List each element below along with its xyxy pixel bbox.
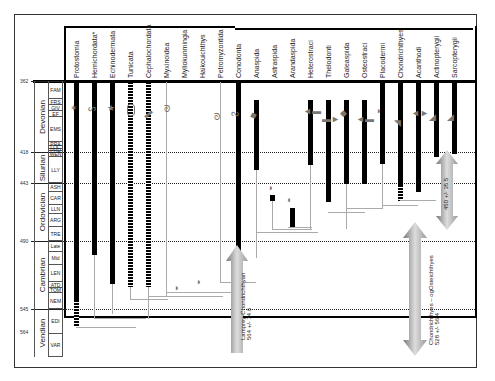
actino-sarco-divergence-label: 450 +/- 35.5: [443, 178, 449, 210]
stage-cell: ARG: [48, 214, 63, 227]
range-bar-acanthodi: [416, 82, 421, 192]
range-hatch-chondrichthyes: [398, 185, 403, 201]
stage-cell: LLN: [48, 205, 63, 214]
range-bar-protostomia: [74, 82, 79, 308]
taxon-label: Acanthodi: [414, 30, 424, 78]
period-cell: Devonian: [34, 81, 49, 152]
time-tick-label: 490: [20, 238, 28, 244]
taxon-label: Astraspida: [270, 30, 280, 78]
taxon-name: Echinodermata: [109, 31, 116, 78]
taxon-name: Heterostraci: [307, 40, 314, 78]
taxon-name: Thelodonti: [325, 45, 332, 78]
acanthodian-fossil-icon: ◄►: [411, 108, 429, 118]
taxon-label: Tunicata: [126, 30, 136, 78]
range-bar-arandaspida: [290, 208, 295, 228]
chondrichthyes-divergence-label: Chondrichthyes – ogOsteichthyes528 +/- 5…: [428, 255, 440, 345]
taxon-name: Tunicata: [127, 51, 134, 78]
time-tick-label: 418: [20, 149, 28, 155]
stage-cell: EMS: [48, 117, 63, 142]
taxon-label: Sarcopterygii: [450, 30, 460, 78]
astraspid-fossil-icon: ◗: [268, 183, 273, 193]
branch-heterostraci: [310, 165, 311, 229]
taxon-label: Hemichordata*: [90, 30, 100, 78]
taxon-label: Heterostraci: [306, 30, 316, 78]
taxon-name: Conodonta: [235, 44, 242, 78]
time-tick-label: 443: [20, 180, 28, 186]
taxon-name: Sarcopterygii: [451, 37, 458, 78]
time-tick-label: 564: [20, 329, 28, 335]
lamprey-divergence-label: Lamprey-Chondrichthyan564 +/- 74.6: [240, 273, 252, 340]
conodont-fossil-icon: ᔓ: [231, 108, 239, 118]
lamprey-fossil-icon: ᘐ: [214, 112, 220, 123]
haikouichthys-fossil-icon: ◗: [196, 277, 201, 287]
taxon-label: Arandaspida: [288, 30, 298, 78]
stage-cell: Late: [48, 241, 63, 252]
stage-cell: VAR: [48, 334, 63, 357]
taxon-name: Astraspida: [271, 45, 278, 78]
period-name: Cambrian: [38, 258, 47, 293]
branch-astraspida: [272, 201, 273, 229]
hemichordate-fossil-icon: ᔕ: [88, 103, 96, 113]
branch-cephalochordata: [148, 287, 149, 319]
period-cell: Vendian: [34, 309, 49, 357]
taxon-name: Cephalochordata: [145, 25, 152, 78]
taxon-name: Galeaspida: [343, 43, 350, 78]
branch-hemichordata: [94, 255, 95, 319]
chondrichthyes-osteichthyes-arrow: [403, 222, 427, 356]
taxon-name: Arandaspida: [289, 39, 296, 78]
branch-node-3: [130, 299, 168, 300]
branch-galeaspida: [346, 184, 347, 229]
taxon-name: Myxinoidea: [163, 43, 170, 78]
myllokunmingia-fossil-icon: ◗: [174, 283, 179, 293]
branch-node-8: [272, 229, 312, 230]
branch-node-7: [256, 232, 318, 233]
actinopterygian-fossil-icon: ◢: [429, 112, 436, 122]
branch-node-11: [346, 208, 383, 209]
chondrichthyan-fossil-icon: ◥: [394, 118, 401, 128]
range-hatch-protostomia: [74, 300, 79, 326]
osteostracan-fossil-icon: ◄▬: [356, 114, 374, 124]
branch-tunicata: [130, 287, 131, 299]
branch-node-13: [400, 200, 436, 201]
taxon-name: Placodermi: [379, 43, 386, 78]
stage-cell: NEM: [48, 293, 63, 309]
taxon-label: Actinopterygii: [432, 30, 442, 78]
period-cell: Cambrian: [34, 241, 49, 309]
period-name: Devonian: [38, 100, 47, 134]
sarcopterygian-fossil-icon: ◢: [447, 112, 454, 122]
taxon-label: Myllokunmingia: [180, 30, 190, 78]
branch-node-12: [382, 205, 418, 206]
taxon-label: Petromyzontida: [216, 30, 226, 78]
silurian-devonian-boundary: [65, 152, 475, 153]
stage-cell: ASH: [48, 183, 63, 192]
taxon-name: Protostomia: [73, 41, 80, 78]
taxon-label: Galeaspida: [342, 30, 352, 78]
stage-cell: FAM: [48, 81, 63, 99]
branch-node-9: [288, 227, 312, 228]
taxon-name: Actinopterygii: [433, 36, 440, 78]
stage-cell: LLY: [48, 157, 63, 183]
stage-cell: TRE: [48, 227, 63, 241]
period-name: Silurian: [38, 154, 47, 181]
present-line: [33, 80, 475, 83]
taxon-name: Haikouichthys: [199, 34, 206, 78]
taxon-label: Haikouichthys: [198, 30, 208, 78]
stage-cell: LEN: [48, 265, 63, 282]
thelodont-fossil-icon: ▬►: [322, 114, 340, 124]
taxon-name: Chondrichthyes: [397, 29, 404, 78]
period-name: Vendian: [38, 319, 47, 348]
range-bar-chondrichthyes: [398, 82, 403, 192]
period-cell: Ordovician: [34, 183, 49, 241]
period-name: Ordovician: [38, 193, 47, 231]
branch-echinodermata: [112, 284, 113, 314]
period-cell: Silurian: [34, 152, 49, 183]
taxon-name: Acanthodi: [415, 47, 422, 78]
tunicate-fossil-icon: [127, 104, 135, 116]
range-bar-placodermi: [380, 82, 385, 164]
stage-cell: Mid: [48, 252, 63, 265]
taxon-label: Myxinoidea: [162, 30, 172, 78]
taxon-label: Conodonta: [234, 30, 244, 78]
taxon-name: Hemichordata*: [91, 32, 98, 78]
heterostracan-fossil-icon: ◄▬: [303, 106, 321, 116]
taxon-name: Myllokunmingia: [181, 30, 188, 78]
